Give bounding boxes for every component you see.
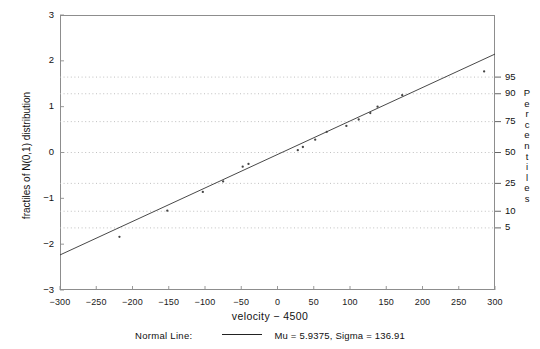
percentile-title-char: n [520, 141, 534, 152]
percentile-title-char: s [520, 194, 534, 205]
percentile-title-char: P [520, 88, 534, 99]
normal-probability-plot: fractiles of N(0,1) distribution −3−2−10… [0, 0, 540, 349]
legend-parameters: Mu = 5.9375, Sigma = 136.91 [274, 330, 405, 341]
x-tick-label: 300 [473, 297, 517, 307]
percentile-axis-title: Percentiles [520, 88, 534, 205]
percentile-tick-label: 10 [505, 205, 529, 216]
percentile-tick-label: 5 [505, 221, 529, 232]
percentile-tick-label: 95 [505, 71, 529, 82]
legend-title: Normal Line: [135, 330, 192, 341]
legend: Normal Line: Mu = 5.9375, Sigma = 136.91 [0, 330, 540, 341]
legend-line-swatch [222, 334, 262, 335]
x-axis-title: velocity − 4500 [0, 310, 540, 322]
